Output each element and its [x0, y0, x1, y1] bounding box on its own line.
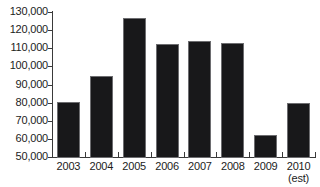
bar — [123, 18, 146, 158]
bar — [90, 76, 113, 158]
y-axis-tick-mark — [48, 85, 53, 86]
y-axis-tick-mark — [48, 66, 53, 67]
x-axis-tick-mark — [315, 152, 316, 158]
x-axis-tick-label: 2009 — [249, 160, 282, 172]
x-axis-tick-label: 2004 — [85, 160, 118, 172]
y-axis-tick-mark — [48, 30, 53, 31]
x-axis-tick-mark — [184, 152, 185, 158]
y-axis-tick-label: 110,000 — [2, 42, 48, 53]
x-axis-tick-label-year: 2006 — [155, 160, 179, 172]
y-axis-tick-mark — [48, 121, 53, 122]
x-axis-tick-label: 2010(est) — [282, 160, 315, 184]
x-axis-tick-mark — [118, 152, 119, 158]
x-axis-tick-label: 2003 — [52, 160, 85, 172]
x-axis-tick-label: 2007 — [184, 160, 217, 172]
bar-chart: 50,00060,00070,00080,00090,000100,000110… — [0, 0, 320, 187]
y-axis-tick-label: 50,000 — [2, 151, 48, 162]
bar — [57, 102, 80, 158]
bar — [156, 44, 179, 158]
y-axis-tick-mark — [48, 12, 53, 13]
y-axis-tick-label: 70,000 — [2, 115, 48, 126]
x-axis-tick-label-year: 2007 — [188, 160, 212, 172]
x-axis-tick-label-year: 2003 — [57, 160, 81, 172]
x-axis-tick-mark — [52, 152, 53, 158]
y-axis-tick-label: 90,000 — [2, 79, 48, 90]
y-axis-tick-label: 100,000 — [2, 60, 48, 71]
x-axis-tick-mark — [85, 152, 86, 158]
x-axis-tick-label: 2008 — [216, 160, 249, 172]
x-axis-tick-mark — [151, 152, 152, 158]
x-axis-tick-mark — [249, 152, 250, 158]
x-axis-tick-mark — [216, 152, 217, 158]
x-axis-tick-label-year: 2005 — [122, 160, 146, 172]
x-axis-tick-label-note: (est) — [282, 172, 315, 184]
x-axis-labels: 20032004200520062007200820092010(est) — [52, 160, 315, 187]
y-axis-tick-mark — [48, 48, 53, 49]
bar — [254, 135, 277, 158]
y-axis-tick-label: 120,000 — [2, 24, 48, 35]
y-axis-labels: 50,00060,00070,00080,00090,000100,000110… — [2, 0, 48, 187]
y-axis-tick-label: 130,000 — [2, 6, 48, 17]
x-axis-tick-mark — [282, 152, 283, 158]
x-axis-tick-label-year: 2009 — [254, 160, 278, 172]
bar — [221, 43, 244, 158]
bar — [287, 103, 310, 158]
y-axis-tick-label: 60,000 — [2, 133, 48, 144]
x-axis-tick-label-year: 2004 — [89, 160, 113, 172]
x-axis-tick-label: 2006 — [151, 160, 184, 172]
x-axis-tick-label: 2005 — [118, 160, 151, 172]
y-axis-tick-mark — [48, 139, 53, 140]
bars-layer — [52, 12, 315, 158]
bar — [188, 41, 211, 158]
x-axis-tick-label-year: 2010 — [287, 160, 311, 172]
y-axis-tick-label: 80,000 — [2, 97, 48, 108]
x-axis-tick-label-year: 2008 — [221, 160, 245, 172]
y-axis-tick-mark — [48, 103, 53, 104]
